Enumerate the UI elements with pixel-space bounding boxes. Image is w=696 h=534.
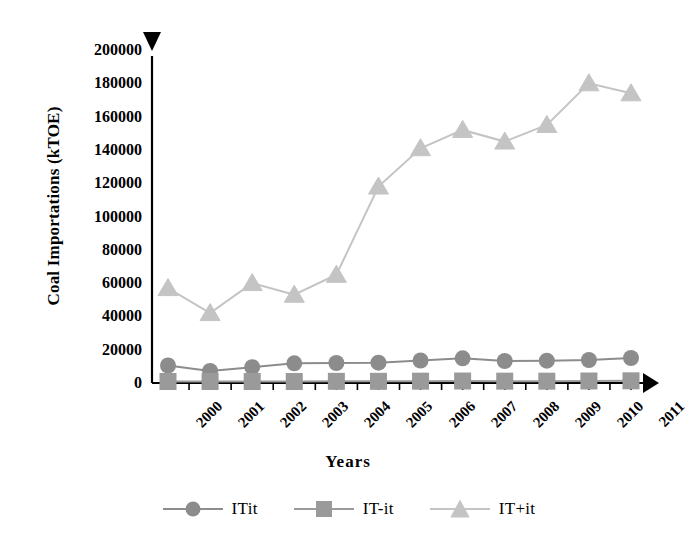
x-tick-label: 2005 — [403, 398, 436, 431]
legend-swatch — [161, 498, 225, 520]
circle-marker — [185, 502, 200, 517]
x-axis-title: Years — [0, 452, 696, 472]
legend-label: IT-it — [363, 499, 394, 519]
legend-label: IT+it — [499, 499, 536, 519]
x-tick-label: 2003 — [319, 398, 352, 431]
legend-swatch — [292, 498, 356, 520]
legend-item[interactable]: ITit — [161, 498, 258, 520]
x-tick-label: 2002 — [277, 398, 310, 431]
legend-swatch — [428, 498, 492, 520]
x-tick-label: 2011 — [656, 398, 689, 431]
legend-item[interactable]: IT-it — [292, 498, 394, 520]
legend-label: ITit — [232, 499, 258, 519]
x-tick-label: 2008 — [530, 398, 563, 431]
x-tick-label: 2007 — [487, 398, 520, 431]
x-tick-label: 2006 — [445, 398, 478, 431]
x-tick-label: 2004 — [361, 398, 394, 431]
legend-item[interactable]: IT+it — [428, 498, 536, 520]
chart-figure: Coal Importations (kTOE) 020000400006000… — [0, 0, 696, 534]
x-tick-label: 2000 — [193, 398, 226, 431]
square-marker — [316, 501, 332, 517]
x-tick-label: 2001 — [235, 398, 268, 431]
x-tick-label: 2009 — [572, 398, 605, 431]
x-tick-label: 2010 — [614, 398, 647, 431]
chart-legend: ITitIT-itIT+it — [0, 498, 696, 520]
